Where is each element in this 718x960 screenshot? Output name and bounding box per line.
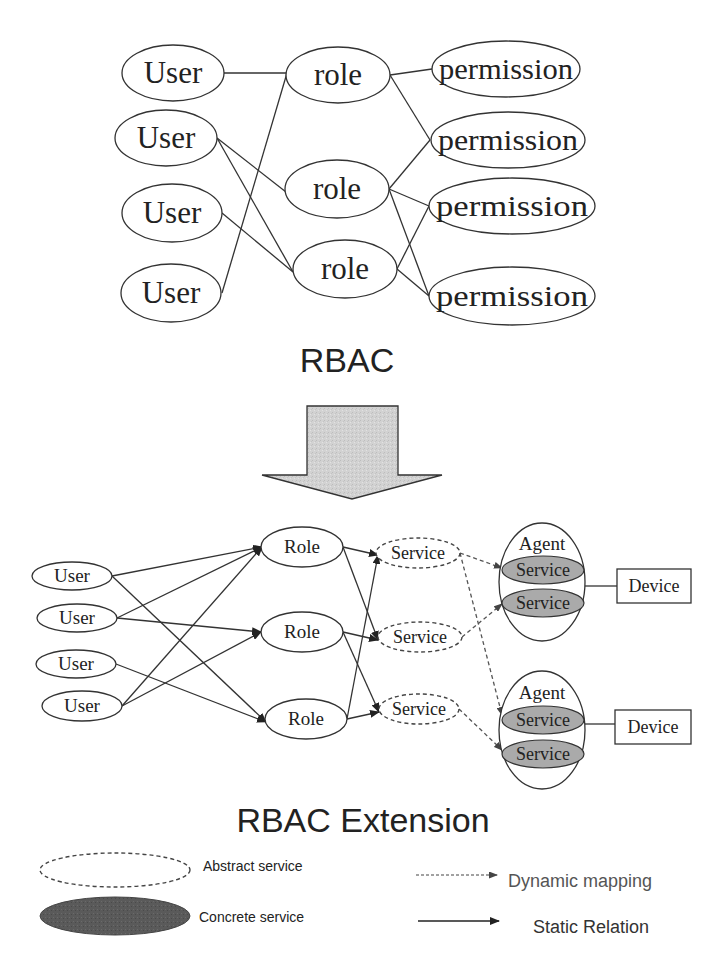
static-relation-arrow (343, 547, 378, 555)
rbac-title: RBAC (300, 341, 394, 379)
role-node: role (286, 47, 390, 103)
role-node-label: role (313, 171, 361, 206)
assignment-line (217, 138, 286, 192)
role-node-label: role (314, 57, 362, 92)
concrete-service-swatch (40, 897, 190, 935)
abstract-service-node-label: Service (393, 627, 447, 647)
static-relation-arrow (117, 547, 262, 618)
abstract-service-swatch (40, 853, 190, 887)
agent-label: Agent (519, 533, 566, 554)
user-node: User (36, 650, 116, 678)
legend: Abstract service Concrete service Dynami… (40, 853, 652, 937)
assignment-line (222, 213, 293, 272)
static-relation-arrow (122, 632, 261, 706)
legend-abstract-service: Abstract service (40, 853, 303, 887)
user-node: User (121, 264, 221, 322)
role-node-label: Role (288, 708, 324, 729)
permission-node-label: permission (438, 123, 578, 156)
user-node-label: User (144, 55, 203, 90)
permission-node-label: permission (439, 52, 573, 85)
user-node-label: User (58, 653, 95, 674)
agent-label: Agent (519, 682, 566, 703)
legend-static-label: Static Relation (533, 917, 649, 937)
assignment-line (217, 138, 293, 272)
role-node: role (285, 160, 389, 218)
role-node: Role (261, 527, 343, 567)
assignment-line (390, 75, 430, 140)
role-node: Role (265, 699, 347, 739)
agent-group: AgentServiceServiceDevice (499, 671, 691, 789)
rbac-top-diagram: UserUserUserUserrolerolerolepermissionpe… (115, 41, 595, 379)
agent-group: AgentServiceServiceDevice (499, 523, 691, 641)
static-relation-arrow (343, 632, 378, 640)
assignment-line (222, 73, 287, 293)
static-relation-arrow (122, 547, 262, 706)
legend-dynamic-label: Dynamic mapping (508, 871, 652, 891)
permission-node: permission (432, 41, 580, 97)
rbac-extension-nodes: UserUserUserUserRoleRoleRoleServiceServi… (32, 523, 691, 789)
assignment-line (390, 69, 432, 75)
user-node: User (122, 184, 222, 242)
legend-static-relation: Static Relation (418, 917, 649, 937)
user-node-label: User (142, 275, 201, 310)
role-node-label: role (321, 251, 369, 286)
device-label: Device (628, 717, 679, 737)
concrete-service-node-label: Service (516, 744, 570, 764)
legend-dynamic-mapping: Dynamic mapping (416, 871, 652, 891)
dynamic-mapping-arrow (460, 553, 502, 715)
role-node: role (293, 240, 397, 298)
assignment-line (397, 206, 429, 269)
transform-down-arrow-icon (262, 406, 442, 499)
abstract-service-node: Service (376, 538, 460, 568)
abstract-service-node-label: Service (392, 699, 446, 719)
user-node-label: User (143, 195, 202, 230)
assignment-line (389, 140, 430, 189)
role-node-label: Role (284, 621, 320, 642)
concrete-service-node: Service (502, 556, 584, 584)
user-node-label: User (54, 565, 91, 586)
user-node: User (115, 110, 217, 166)
legend-abstract-label: Abstract service (203, 858, 303, 874)
permission-node-label: permission (436, 279, 588, 312)
rbac-extension-title: RBAC Extension (236, 801, 489, 839)
static-relation-arrow (116, 664, 266, 722)
user-node: User (37, 604, 117, 632)
device-label: Device (629, 576, 680, 596)
abstract-service-node: Service (379, 694, 459, 724)
concrete-service-node-label: Service (516, 593, 570, 613)
dynamic-mapping-arrow (462, 604, 502, 637)
permission-node: permission (431, 112, 585, 168)
static-relation-arrow (347, 555, 378, 719)
permission-node-label: permission (436, 189, 588, 222)
user-node: User (122, 45, 224, 101)
role-node: Role (261, 612, 343, 652)
concrete-service-node: Service (502, 589, 584, 617)
user-node-label: User (137, 120, 196, 155)
user-node: User (42, 691, 122, 721)
concrete-service-node: Service (502, 706, 584, 734)
permission-node: permission (429, 267, 595, 325)
rbac-nodes: UserUserUserUserrolerolerolepermissionpe… (115, 41, 595, 325)
concrete-service-node-label: Service (516, 710, 570, 730)
static-relation-arrow (112, 576, 266, 722)
abstract-service-node-label: Service (391, 543, 445, 563)
rbac-diagram: UserUserUserUserrolerolerolepermissionpe… (0, 0, 718, 960)
dynamic-mapping-edges (459, 553, 502, 750)
abstract-service-node: Service (378, 622, 462, 652)
dynamic-mapping-arrow (460, 553, 502, 568)
role-node-label: Role (284, 536, 320, 557)
rbac-extension-diagram: UserUserUserUserRoleRoleRoleServiceServi… (32, 523, 691, 839)
user-node-label: User (64, 695, 101, 716)
concrete-service-node-label: Service (516, 560, 570, 580)
dynamic-mapping-arrow (459, 709, 502, 750)
concrete-service-node: Service (502, 740, 584, 768)
user-node: User (32, 562, 112, 590)
legend-concrete-service: Concrete service (40, 897, 304, 935)
permission-node: permission (429, 178, 595, 234)
static-relation-arrow (347, 712, 379, 719)
legend-concrete-label: Concrete service (199, 909, 304, 925)
static-relation-arrow (343, 547, 378, 640)
user-node-label: User (59, 607, 96, 628)
